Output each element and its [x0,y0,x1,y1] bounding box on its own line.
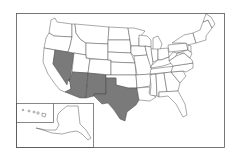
state-north-dakota[interactable] [108,27,130,40]
state-kansas[interactable] [111,62,136,75]
state-nebraska[interactable] [108,52,135,63]
us-map [0,0,236,159]
us-map-svg [0,0,236,159]
state-wyoming[interactable] [86,43,108,60]
state-colorado[interactable] [88,59,111,75]
state-arkansas[interactable] [136,74,151,88]
state-south-dakota[interactable] [108,40,131,53]
state-iowa[interactable] [131,46,147,56]
